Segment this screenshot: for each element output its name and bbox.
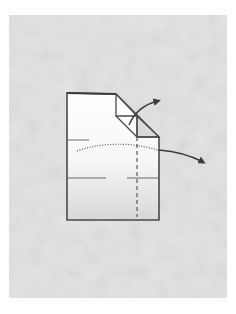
flap-upper-triangle bbox=[116, 94, 137, 116]
paper-outline bbox=[67, 93, 159, 220]
flap-lower-shaded bbox=[137, 116, 159, 137]
origami-fold-diagram bbox=[0, 0, 236, 314]
paper-sheet bbox=[67, 93, 159, 220]
side-fold-arrow bbox=[159, 150, 203, 162]
paper-top-edge-highlight bbox=[67, 93, 116, 94]
